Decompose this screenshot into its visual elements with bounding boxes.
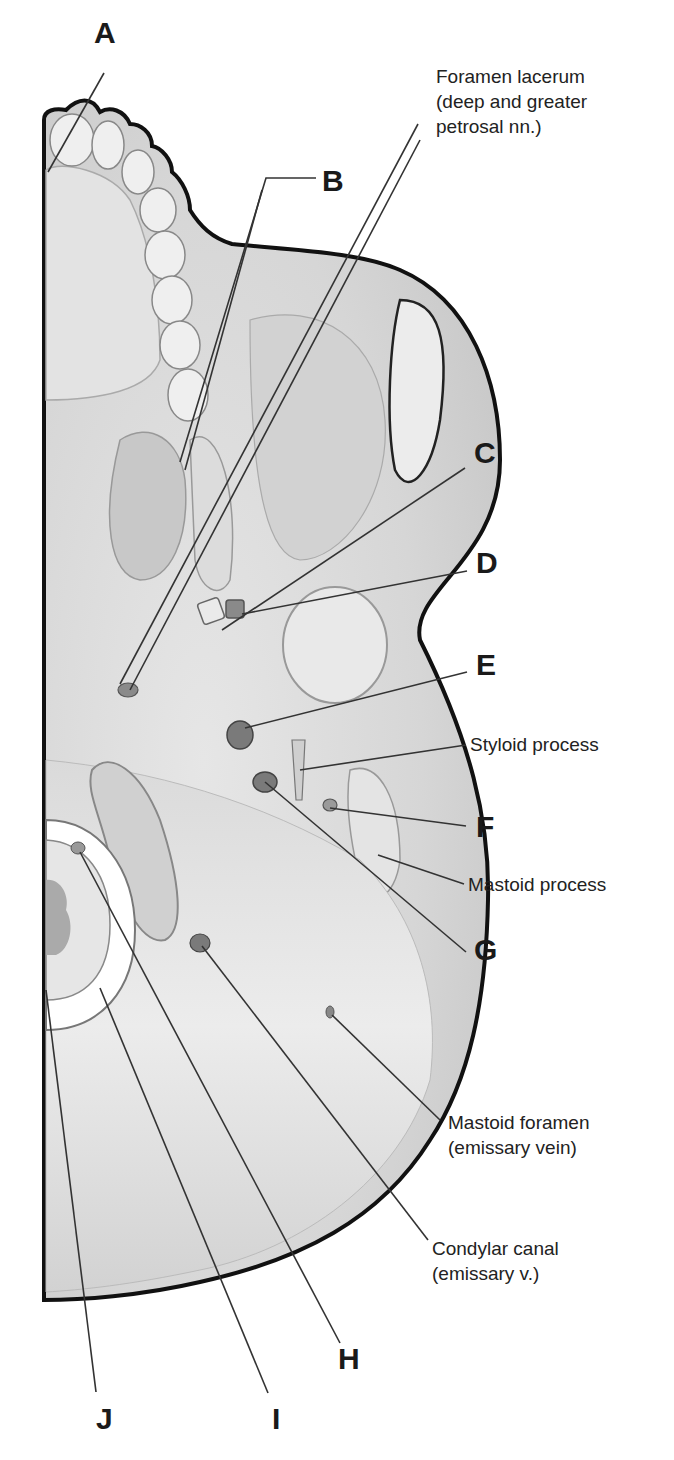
label-b: B <box>322 166 344 196</box>
label-g: G <box>474 935 497 965</box>
carotid-canal <box>227 721 253 749</box>
label-h: H <box>338 1344 360 1374</box>
foramen-d <box>226 600 244 618</box>
label-line: (deep and greater <box>436 89 587 114</box>
label-d: D <box>476 548 498 578</box>
label-styloid-process: Styloid process <box>470 732 599 757</box>
skull-illustration <box>0 0 674 1460</box>
label-line: Mastoid foramen <box>448 1110 590 1135</box>
label-mastoid-foramen: Mastoid foramen (emissary vein) <box>448 1110 590 1160</box>
label-line: petrosal nn.) <box>436 114 587 139</box>
label-j: J <box>96 1404 113 1434</box>
label-f: F <box>476 812 494 842</box>
label-line: (emissary v.) <box>432 1261 559 1286</box>
label-condylar-canal: Condylar canal (emissary v.) <box>432 1236 559 1286</box>
label-e: E <box>476 650 496 680</box>
label-line: Foramen lacerum <box>436 64 587 89</box>
mandibular-fossa <box>283 587 387 703</box>
hypoglossal-canal <box>71 842 85 854</box>
skull-base-diagram: A B C D E F G H I J Foramen lacerum (dee… <box>0 0 674 1460</box>
label-c: C <box>474 438 496 468</box>
label-i: I <box>272 1404 280 1434</box>
label-mastoid-process: Mastoid process <box>468 872 606 897</box>
label-line: Condylar canal <box>432 1236 559 1261</box>
label-line: (emissary vein) <box>448 1135 590 1160</box>
condylar-canal-shape <box>190 934 210 952</box>
foramen-lacerum <box>118 683 138 697</box>
label-a: A <box>94 18 116 48</box>
label-foramen-lacerum: Foramen lacerum (deep and greater petros… <box>436 64 587 139</box>
